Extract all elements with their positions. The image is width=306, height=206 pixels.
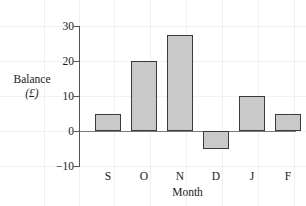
- y-axis-title-text: Balance: [13, 73, 50, 85]
- bar-F[interactable]: [275, 114, 301, 132]
- y-tick-mark--10: [74, 166, 80, 167]
- x-tick-label-N: N: [165, 170, 195, 183]
- bar-D[interactable]: [203, 131, 229, 149]
- x-tick-label-O: O: [129, 170, 159, 183]
- x-tick-label-F: F: [273, 170, 303, 183]
- y-tick-mark-20: [74, 61, 80, 62]
- y-tick-label-30: 30: [52, 20, 74, 32]
- x-tick-label-D: D: [201, 170, 231, 183]
- y-tick-mark-30: [74, 26, 80, 27]
- bar-chart: Balance (£) 30 20 10 0 −10 S O N D J F: [0, 0, 306, 206]
- y-tick-mark-10: [74, 96, 80, 97]
- bar-O[interactable]: [131, 61, 157, 131]
- y-axis-title: Balance (£): [4, 72, 60, 100]
- bar-S[interactable]: [95, 114, 121, 132]
- x-tick-label-S: S: [93, 170, 123, 183]
- x-axis-title: Month: [79, 186, 296, 199]
- y-axis-unit: (£): [4, 86, 60, 100]
- plot-area: [79, 20, 296, 170]
- y-tick-label--10: −10: [44, 160, 74, 172]
- x-axis-tick-labels: S O N D J F: [79, 170, 296, 186]
- x-axis-zero-line: [79, 131, 296, 132]
- x-tick-label-J: J: [237, 170, 267, 183]
- bar-J[interactable]: [239, 96, 265, 131]
- y-tick-label-20: 20: [52, 55, 74, 67]
- bar-N[interactable]: [167, 35, 193, 131]
- y-tick-label-0: 0: [52, 125, 74, 137]
- y-tick-mark-0: [74, 131, 80, 132]
